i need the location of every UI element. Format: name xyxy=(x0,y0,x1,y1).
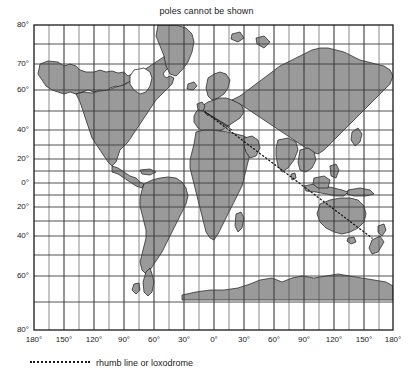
y-tick-label-20n: 20° xyxy=(3,154,29,163)
y-tick-label-0: 0° xyxy=(3,178,29,187)
x-tick-label-150w: 150° xyxy=(47,335,81,344)
y-tick-label-20s: 20° xyxy=(3,202,29,211)
x-tick-label-0: 0° xyxy=(197,335,231,344)
x-tick-label-30w: 30° xyxy=(167,335,201,344)
legend-label: rhumb line or loxodrome xyxy=(96,358,193,368)
y-tick-label-60s: 60° xyxy=(3,271,29,280)
x-tick-label-120e: 120° xyxy=(317,335,351,344)
y-tick-label-70n: 70° xyxy=(3,59,29,68)
y-tick-label-80s: 80° xyxy=(3,325,29,334)
world-map-canvas xyxy=(0,0,413,382)
x-tick-label-30e: 30° xyxy=(227,335,261,344)
x-tick-label-90w: 90° xyxy=(107,335,141,344)
legend: rhumb line or loxodrome xyxy=(30,358,193,368)
x-tick-label-60e: 60° xyxy=(257,335,291,344)
x-tick-label-180e: 180° xyxy=(376,335,410,344)
x-tick-label-180w: 180° xyxy=(17,335,51,344)
x-tick-label-60w: 60° xyxy=(137,335,171,344)
x-tick-label-120w: 120° xyxy=(77,335,111,344)
y-tick-label-80n: 80° xyxy=(3,20,29,29)
rhumb-line-swatch-icon xyxy=(30,361,90,365)
y-tick-label-40n: 40° xyxy=(3,125,29,134)
y-tick-label-60n: 60° xyxy=(3,85,29,94)
mercator-world-map-figure: poles cannot be shown xyxy=(0,0,413,382)
y-tick-label-40s: 40° xyxy=(3,231,29,240)
x-tick-label-90e: 90° xyxy=(287,335,321,344)
